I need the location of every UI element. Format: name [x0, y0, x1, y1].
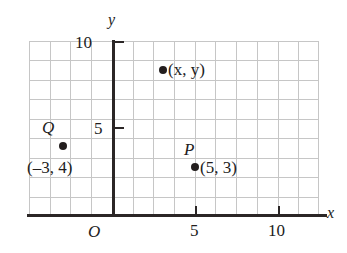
y-axis-tick-5: [114, 127, 124, 129]
grid-edge-right: [318, 41, 319, 216]
point-dot-p: [191, 163, 199, 171]
x-axis-tick-10: [278, 206, 280, 215]
y-tick-label-5: 5: [94, 120, 103, 137]
origin-label: O: [88, 223, 100, 240]
x-axis-line: [27, 214, 327, 217]
x-axis-label: x: [327, 205, 334, 221]
y-axis-label: y: [108, 12, 115, 28]
point-coords-p: (5, 3): [200, 159, 237, 176]
point-coords-q: (–3, 4): [27, 159, 72, 176]
point-dot-q: [59, 142, 67, 150]
coordinate-plane-figure: 5 10 5 10 y x O (x, y) Q (–3, 4) P (5, 3…: [0, 0, 347, 253]
y-tick-label-10: 10: [75, 34, 92, 51]
point-label-p: P: [184, 141, 194, 158]
y-axis-tick-10: [114, 41, 124, 43]
point-label-xy: (x, y): [168, 61, 205, 78]
point-label-q: Q: [42, 119, 54, 136]
point-dot-xy: [159, 66, 167, 74]
x-axis-tick-5: [195, 206, 197, 215]
x-tick-label-5: 5: [190, 222, 199, 239]
x-tick-label-10: 10: [268, 222, 285, 239]
